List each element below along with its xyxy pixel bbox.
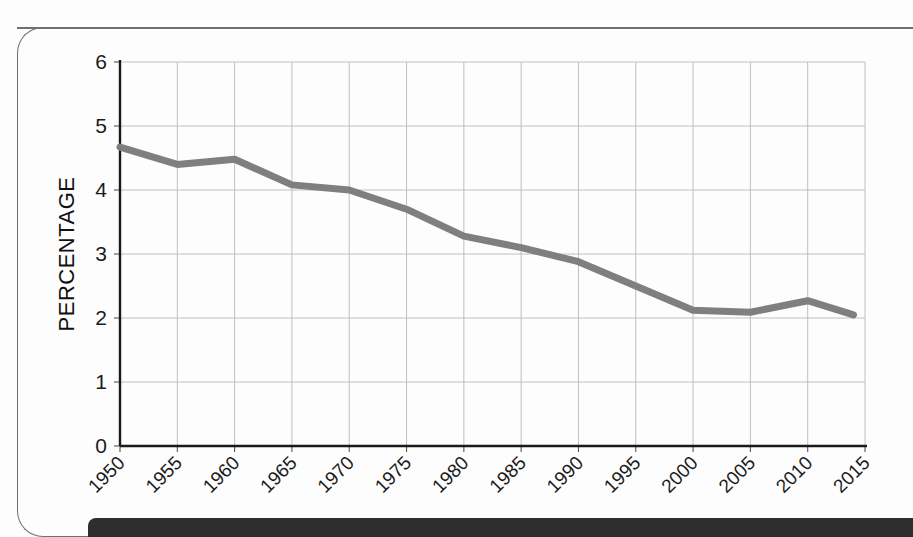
y-tick-label-4: 4 (95, 178, 107, 201)
scanned-page: 0123456 19501955196019651970197519801985… (0, 0, 913, 537)
x-tick-label-1990: 1990 (543, 452, 588, 497)
y-tick-label-3: 3 (95, 242, 107, 265)
x-tick-label-2000: 2000 (657, 452, 702, 497)
x-tick-label-1995: 1995 (600, 452, 645, 497)
x-axis-tick-labels: 1950195519601965197019751980198519901995… (84, 452, 874, 497)
horizontal-gridlines (120, 62, 865, 382)
y-tick-label-6: 6 (95, 50, 107, 73)
x-tick-label-1975: 1975 (371, 452, 416, 497)
x-tick-label-1965: 1965 (256, 452, 301, 497)
y-axis-tick-labels: 0123456 (95, 50, 107, 457)
x-tick-label-1950: 1950 (84, 452, 129, 497)
y-tick-label-2: 2 (95, 306, 107, 329)
bottom-dark-bar (88, 518, 913, 537)
y-tick-label-0: 0 (95, 434, 107, 457)
line-chart: 0123456 19501955196019651970197519801985… (0, 0, 913, 510)
x-tick-label-1970: 1970 (313, 452, 358, 497)
chart-canvas: 0123456 19501955196019651970197519801985… (0, 0, 913, 510)
x-tick-label-1955: 1955 (141, 452, 186, 497)
x-tick-label-1985: 1985 (485, 452, 530, 497)
y-tick-label-5: 5 (95, 114, 107, 137)
y-axis-title: PERCENTAGE (54, 177, 79, 332)
x-tick-label-1980: 1980 (428, 452, 473, 497)
x-tick-label-2005: 2005 (714, 452, 759, 497)
data-series-line (120, 147, 854, 315)
y-tick-label-1: 1 (95, 370, 107, 393)
x-tick-label-2010: 2010 (772, 452, 817, 497)
x-tick-label-1960: 1960 (199, 452, 244, 497)
x-tick-label-2015: 2015 (829, 452, 874, 497)
